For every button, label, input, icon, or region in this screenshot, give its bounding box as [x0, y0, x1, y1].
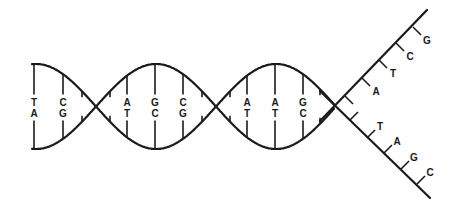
upper-strand-tick	[345, 96, 353, 104]
lower-strand-tick	[350, 112, 358, 120]
base-label-top: T	[31, 97, 37, 108]
base-label-bottom: T	[244, 108, 250, 119]
lower-strand-base: T	[377, 121, 383, 132]
upper-strand-tick	[379, 60, 387, 68]
lower-strand-base: A	[393, 136, 400, 147]
base-label-bottom: A	[30, 108, 37, 119]
lower-strand-base: G	[410, 152, 418, 163]
base-label-bottom: C	[299, 108, 306, 119]
base-label-bottom: C	[151, 108, 158, 119]
base-label-top: G	[151, 97, 159, 108]
upper-strand-base: C	[406, 51, 413, 62]
lower-strand-tick	[367, 130, 375, 138]
upper-strand-base: A	[372, 86, 379, 97]
upper-strand-base: T	[390, 68, 396, 79]
base-labels: TACGATGCCGATATGC	[30, 97, 307, 119]
base-label-top: A	[243, 97, 250, 108]
upper-strand-tick	[396, 43, 404, 51]
upper-single-strand	[320, 10, 427, 121]
dna-helix-diagram: TACGATGCCGATATGC ATCGTAGC	[0, 0, 449, 209]
lower-strand-tick	[384, 145, 392, 153]
base-label-top: A	[271, 97, 278, 108]
base-label-top: G	[299, 97, 307, 108]
base-label-top: C	[179, 97, 186, 108]
base-label-bottom: T	[124, 108, 130, 119]
lower-strand-tick	[401, 161, 409, 169]
replication-fork: ATCGTAGC	[320, 10, 434, 198]
base-label-bottom: T	[272, 108, 278, 119]
upper-strand-tick	[362, 78, 370, 86]
lower-strand-tick	[417, 176, 425, 184]
base-label-bottom: G	[59, 108, 67, 119]
lower-single-strand	[320, 91, 430, 198]
upper-strand-base: G	[423, 35, 431, 46]
lower-strand-base: C	[426, 167, 433, 178]
base-label-bottom: G	[179, 108, 187, 119]
base-label-top: A	[123, 97, 130, 108]
base-label-top: C	[59, 97, 66, 108]
upper-strand-tick	[413, 27, 421, 35]
